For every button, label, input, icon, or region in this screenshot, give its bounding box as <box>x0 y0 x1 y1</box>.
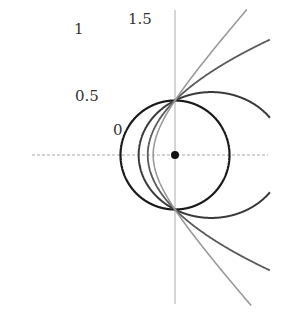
conic-hyperbola-curve <box>153 10 251 306</box>
focus-dot <box>171 151 179 159</box>
label-e-0: 0 <box>113 121 123 139</box>
label-e-1-5: 1.5 <box>128 10 152 28</box>
label-e-1: 1 <box>74 20 84 38</box>
label-e-0-5: 0.5 <box>75 87 99 105</box>
curves-group <box>121 10 270 306</box>
conic-diagram: 1 1.5 0.5 0 <box>0 0 289 329</box>
